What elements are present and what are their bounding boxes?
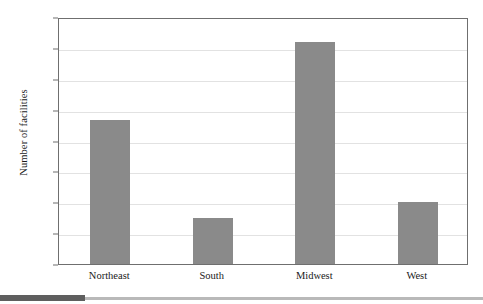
gridline <box>59 50 467 51</box>
bar-midwest[interactable] <box>295 42 335 264</box>
x-tick-label-midwest: Midwest <box>259 270 369 281</box>
bar-northeast[interactable] <box>90 120 130 264</box>
footer-swatch <box>0 295 85 301</box>
y-axis-title: Number of facilities <box>14 0 32 265</box>
gridline <box>59 112 467 113</box>
bar-south[interactable] <box>193 218 233 264</box>
plot-inner <box>59 19 467 264</box>
plot-area <box>58 18 468 265</box>
bar-west[interactable] <box>398 202 438 264</box>
bar-chart-figure: Number of facilities 02004006008001,0001… <box>0 0 483 304</box>
gridline <box>59 81 467 82</box>
x-tick-label-northeast: Northeast <box>54 270 164 281</box>
x-tick-label-west: West <box>362 270 472 281</box>
y-axis-title-text: Number of facilities <box>18 89 29 176</box>
x-tick-label-south: South <box>157 270 267 281</box>
